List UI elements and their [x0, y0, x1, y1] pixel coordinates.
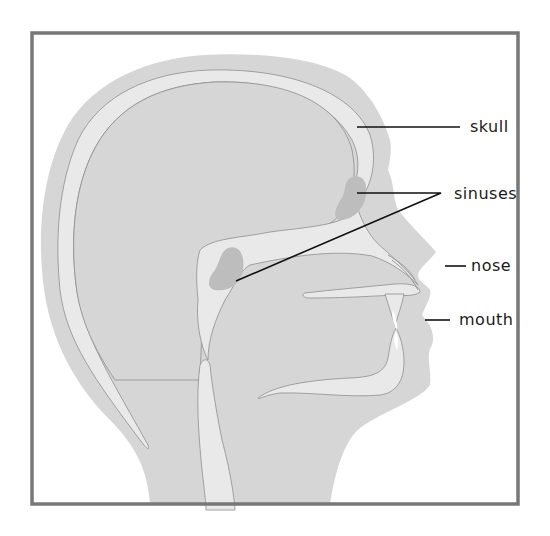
head-anatomy-diagram: skull sinuses nose mouth — [0, 0, 550, 536]
label-mouth: mouth — [459, 310, 513, 329]
label-nose: nose — [471, 256, 511, 275]
label-skull: skull — [470, 117, 509, 136]
label-sinuses: sinuses — [454, 184, 517, 203]
